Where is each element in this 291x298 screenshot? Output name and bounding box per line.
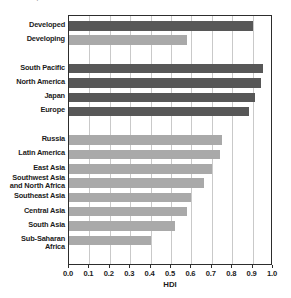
category-label: Southeast Asia (0, 192, 65, 200)
x-tick (231, 265, 232, 268)
category-label-column: DevelopedDevelopingSouth PacificNorth Am… (0, 15, 65, 265)
category-label: Sub-Saharan Africa (0, 235, 65, 251)
x-tick (68, 265, 69, 268)
x-tick (150, 265, 151, 268)
bar-row (69, 150, 271, 160)
bar-row (69, 93, 271, 103)
category-label: Developing (0, 35, 65, 43)
bar (69, 164, 212, 174)
category-label: North America (0, 78, 65, 86)
category-label: Europe (0, 106, 65, 114)
x-tick-label: 0.7 (206, 269, 216, 278)
bar-row (69, 164, 271, 174)
x-tick (109, 265, 110, 268)
bar-row (69, 221, 271, 231)
bar (69, 21, 253, 31)
bar-row (69, 21, 271, 31)
bar-row (69, 236, 271, 246)
bar (69, 35, 187, 45)
x-tick (170, 265, 171, 268)
x-tick (88, 265, 89, 268)
category-label: South Asia (0, 221, 65, 229)
bar-rows (69, 16, 271, 264)
bar (69, 236, 151, 246)
bar-row (69, 193, 271, 203)
category-label: Southwest Asia and North Africa (0, 174, 65, 190)
bar-row (69, 64, 271, 74)
x-tick (129, 265, 130, 268)
category-label: Russia (0, 135, 65, 143)
x-axis-title: HDI (68, 280, 272, 289)
bar-row (69, 135, 271, 145)
x-tick-label: 0.3 (124, 269, 134, 278)
bar (69, 64, 263, 74)
category-label: Japan (0, 92, 65, 100)
hdi-bar-chart: DevelopedDevelopingSouth PacificNorth Am… (0, 10, 291, 298)
bar (69, 193, 191, 203)
bar (69, 207, 187, 217)
bar-row (69, 107, 271, 117)
x-axis: 0.00.10.20.30.40.50.60.70.80.91.0 HDI (68, 265, 272, 295)
x-tick-label: 0.2 (104, 269, 114, 278)
bar-row (69, 178, 271, 188)
x-tick (190, 265, 191, 268)
x-tick-label: 1.0 (267, 269, 277, 278)
bar (69, 150, 220, 160)
x-tick (252, 265, 253, 268)
x-tick (211, 265, 212, 268)
bar (69, 107, 249, 117)
caption-text: decades, and access to health care has (3, 0, 158, 1)
plot-area (68, 15, 272, 265)
bar (69, 221, 175, 231)
bar (69, 78, 261, 88)
category-label: Developed (0, 21, 65, 29)
bar (69, 135, 222, 145)
category-label: South Pacific (0, 64, 65, 72)
clipped-caption: decades, and access to health care has (0, 0, 291, 9)
x-tick (272, 265, 273, 268)
x-tick-label: 0.4 (145, 269, 155, 278)
bar-row (69, 78, 271, 88)
category-label: Latin America (0, 149, 65, 157)
bar-row (69, 207, 271, 217)
x-tick-label: 0.1 (83, 269, 93, 278)
x-tick-label: 0.6 (185, 269, 195, 278)
x-tick-label: 0.0 (63, 269, 73, 278)
category-label: East Asia (0, 164, 65, 172)
bar (69, 178, 204, 188)
x-tick-label: 0.5 (165, 269, 175, 278)
x-tick-label: 0.8 (226, 269, 236, 278)
x-tick-label: 0.9 (247, 269, 257, 278)
category-label: Central Asia (0, 207, 65, 215)
bar-row (69, 35, 271, 45)
bar (69, 93, 255, 103)
